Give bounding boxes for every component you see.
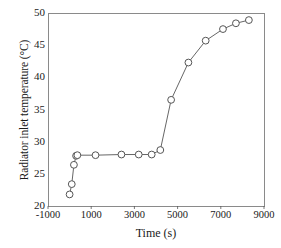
data-point-marker [185,59,192,66]
x-axis-label: Time (s) [48,226,264,240]
x-tick-label: 3000 [124,209,145,221]
data-point-marker [168,96,175,103]
x-tick-label: 5000 [167,209,188,221]
data-point-marker [66,191,73,198]
data-point-marker [245,17,252,24]
data-point-marker [157,147,164,154]
data-point-marker [220,26,227,33]
x-tick-label: -1000 [36,209,61,221]
data-point-marker [92,152,99,159]
chart-figure: Radiator inlet temperature (°C) 20253035… [0,0,281,248]
x-tick-label: 1000 [81,209,102,221]
data-line-0 [70,20,249,194]
x-tick-label: 9000 [254,209,275,221]
data-point-marker [74,152,81,159]
plot-frame [49,14,265,207]
data-point-marker [71,161,78,168]
x-tick-label: 7000 [210,209,231,221]
data-point-marker [202,37,209,44]
data-point-marker [233,20,240,27]
data-point-marker [135,151,142,158]
x-axis-tick-labels: -100010003000500070009000 [0,209,281,223]
data-point-marker [148,151,155,158]
data-point-marker [118,151,125,158]
data-point-marker [68,181,75,188]
